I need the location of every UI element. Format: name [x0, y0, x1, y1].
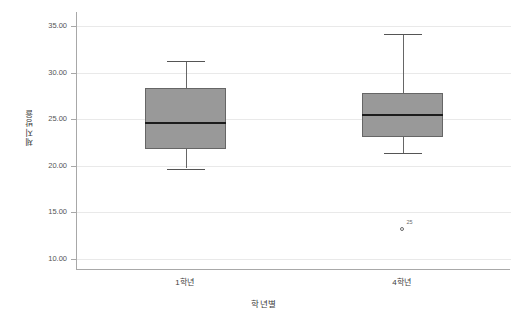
outlier-label: 25: [407, 220, 413, 226]
outlier-point: [400, 227, 404, 231]
y-axis-tick-label: 30.00: [48, 69, 67, 77]
upper-whisker-cap-1학년: [167, 61, 205, 62]
x-axis-label-4학년: 4학년: [392, 276, 410, 287]
y-axis-tick: [71, 166, 76, 167]
y-axis-tick-label: 25.00: [48, 115, 67, 123]
median-line-1학년: [145, 122, 226, 124]
upper-whisker-cap-4학년: [384, 34, 422, 35]
lower-whisker-cap-4학년: [384, 153, 422, 154]
y-axis-tick-label: 10.00: [48, 255, 67, 263]
gridline: [77, 166, 511, 167]
gridline: [77, 73, 511, 74]
y-axis-tick: [71, 119, 76, 120]
upper-whisker-1학년: [186, 61, 187, 88]
lower-whisker-4학년: [403, 137, 404, 153]
y-axis-title: 체지방율: [24, 108, 36, 146]
y-axis-tick-label: 35.00: [48, 22, 67, 30]
gridline: [77, 259, 511, 260]
gridline: [77, 212, 511, 213]
box-1학년: [145, 88, 226, 149]
gridline: [77, 119, 511, 120]
y-axis-tick: [71, 259, 76, 260]
plot-area: 25: [76, 12, 510, 270]
x-axis-title: 학년별: [0, 297, 528, 309]
median-line-4학년: [362, 114, 443, 116]
lower-whisker-1학년: [186, 149, 187, 169]
y-axis-tick: [71, 212, 76, 213]
boxplot-chart: 체지방율 10.0015.0020.0025.0030.0035.00 25 1…: [0, 0, 528, 319]
gridline: [77, 26, 511, 27]
y-axis-tick: [71, 26, 76, 27]
x-axis-label-1학년: 1학년: [175, 276, 193, 287]
y-axis-tick: [71, 73, 76, 74]
y-axis-tick-label: 15.00: [48, 208, 67, 216]
y-axis-tick-label: 20.00: [48, 162, 67, 170]
upper-whisker-4학년: [403, 34, 404, 93]
lower-whisker-cap-1학년: [167, 169, 205, 170]
